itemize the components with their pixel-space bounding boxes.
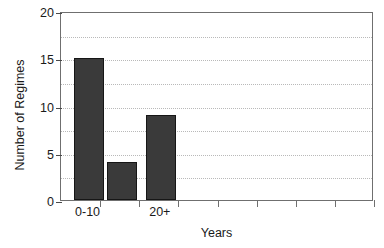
y-axis-tick [56,13,62,14]
x-axis-tick-label: 0-10 [75,205,100,219]
y-axis-tick [56,60,62,61]
gridline [61,155,372,156]
bar [74,58,104,200]
x-axis-tick [257,200,258,207]
bar-chart: Number of Regimes 05101520 Years 0-1020+ [0,0,384,248]
gridline [61,37,372,38]
x-axis-tick [296,200,297,207]
y-axis-tick-label: 15 [40,54,54,67]
y-axis-tick [56,108,62,109]
gridline [61,131,372,132]
gridline [61,108,372,109]
gridline [61,60,372,61]
bar [146,115,176,200]
y-axis-tick [56,202,62,203]
x-axis-tick [100,200,101,207]
x-axis-title: Years [60,226,373,240]
plot-inner: 05101520 [61,13,372,200]
x-axis-tick [139,200,140,207]
y-axis-tick-label: 5 [47,149,54,162]
x-axis-tick [335,200,336,207]
y-axis-tick-label: 0 [47,196,54,209]
plot-area: 05101520 [60,12,373,201]
bar [107,162,137,200]
x-axis-tick [178,200,179,207]
x-axis-tick [218,200,219,207]
x-axis-tick-label: 20+ [149,205,170,219]
x-axis-tick [374,200,375,207]
y-axis-tick-label: 20 [40,7,54,20]
y-axis-tick [56,155,62,156]
y-axis-title: Number of Regimes [13,25,27,205]
gridline [61,84,372,85]
y-axis-tick-label: 10 [40,101,54,114]
